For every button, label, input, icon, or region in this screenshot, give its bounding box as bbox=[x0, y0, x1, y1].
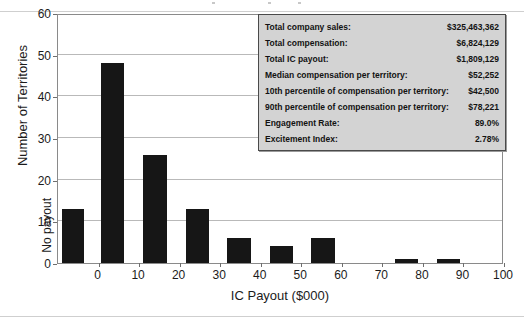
y-axis-tick-label: 20 bbox=[21, 175, 51, 187]
stats-row: Total compensation:$6,824,129 bbox=[265, 35, 499, 51]
stats-row: Total company sales:$325,463,362 bbox=[265, 19, 499, 35]
bar bbox=[311, 238, 334, 263]
x-axis-title: IC Payout ($000) bbox=[57, 288, 503, 303]
x-axis-tick-mark bbox=[180, 263, 181, 267]
stats-row-value: 2.78% bbox=[475, 131, 499, 147]
stats-row: Engagement Rate:89.0% bbox=[265, 115, 499, 131]
x-axis-no-payout-label: No payout bbox=[40, 198, 54, 268]
scan-artifact bbox=[268, 2, 271, 4]
x-axis-tick-mark bbox=[301, 263, 302, 267]
stats-row: Median compensation per territory:$52,25… bbox=[265, 67, 499, 83]
x-axis-tick-label: 50 bbox=[280, 268, 320, 282]
stats-row-label: Total IC payout: bbox=[265, 51, 335, 67]
x-axis-tick-mark bbox=[382, 263, 383, 267]
x-axis-tick-mark bbox=[99, 263, 100, 267]
bar bbox=[101, 63, 125, 263]
gridline bbox=[58, 179, 502, 180]
x-axis-tick-label: 90 bbox=[442, 268, 482, 282]
chart-screenshot: Number of Territories 0102030405060 0102… bbox=[0, 0, 524, 327]
x-axis-tick-label: 40 bbox=[240, 268, 280, 282]
stats-row-value: $42,500 bbox=[468, 83, 499, 99]
stats-row: 90th percentile of compensation per terr… bbox=[265, 99, 499, 115]
x-axis-tick-label: 10 bbox=[118, 268, 158, 282]
x-axis-tick-label: 70 bbox=[361, 268, 401, 282]
bar bbox=[270, 246, 293, 263]
stats-row-label: Total compensation: bbox=[265, 35, 354, 51]
stats-row-value: $325,463,362 bbox=[447, 19, 499, 35]
stats-row-label: Engagement Rate: bbox=[265, 115, 346, 131]
stats-row-label: 10th percentile of compensation per terr… bbox=[265, 83, 455, 99]
page-rule-top bbox=[0, 11, 524, 12]
gridline bbox=[58, 220, 502, 221]
x-axis-tick-mark bbox=[504, 263, 505, 267]
x-axis-tick-mark bbox=[261, 263, 262, 267]
x-axis-tick-label: 0 bbox=[78, 268, 118, 282]
stats-row-value: $6,824,129 bbox=[456, 35, 499, 51]
stats-row-value: $1,809,129 bbox=[456, 51, 499, 67]
x-axis-tick-label: 80 bbox=[402, 268, 442, 282]
stats-row: Excitement Index:2.78% bbox=[265, 131, 499, 147]
bar bbox=[395, 259, 418, 263]
x-axis-tick-mark bbox=[463, 263, 464, 267]
bar bbox=[437, 259, 460, 263]
bar bbox=[143, 155, 167, 263]
stats-row-label: Total company sales: bbox=[265, 19, 357, 35]
x-axis-tick-mark bbox=[220, 263, 221, 267]
x-axis-tick-label: 100 bbox=[483, 268, 523, 282]
x-axis-tick-mark bbox=[423, 263, 424, 267]
y-axis-tick-label: 30 bbox=[21, 133, 51, 145]
x-axis-tick-label: 30 bbox=[199, 268, 239, 282]
stats-row-label: Excitement Index: bbox=[265, 131, 344, 147]
scan-artifact bbox=[212, 2, 215, 4]
x-axis-tick-label: 60 bbox=[321, 268, 361, 282]
stats-row: 10th percentile of compensation per terr… bbox=[265, 83, 499, 99]
summary-stats-box: Total company sales:$325,463,362Total co… bbox=[258, 14, 506, 151]
stats-row-value: $52,252 bbox=[468, 67, 499, 83]
y-axis-tick-label: 40 bbox=[21, 91, 51, 103]
y-axis-tick-label: 60 bbox=[21, 8, 51, 20]
stats-row-label: Median compensation per territory: bbox=[265, 67, 414, 83]
stats-row-label: 90th percentile of compensation per terr… bbox=[265, 99, 455, 115]
x-axis-tick-label: 20 bbox=[159, 268, 199, 282]
stats-row: Total IC payout:$1,809,129 bbox=[265, 51, 499, 67]
page-rule-bottom bbox=[0, 316, 524, 317]
bar bbox=[227, 238, 250, 263]
x-axis-tick-mark bbox=[342, 263, 343, 267]
bar bbox=[186, 209, 209, 263]
y-axis-tick-label: 50 bbox=[21, 50, 51, 62]
bar bbox=[62, 209, 84, 263]
stats-row-value: 89.0% bbox=[475, 115, 499, 131]
stats-row-value: $78,221 bbox=[468, 99, 499, 115]
x-axis-tick-mark bbox=[139, 263, 140, 267]
scan-artifact bbox=[298, 2, 301, 4]
